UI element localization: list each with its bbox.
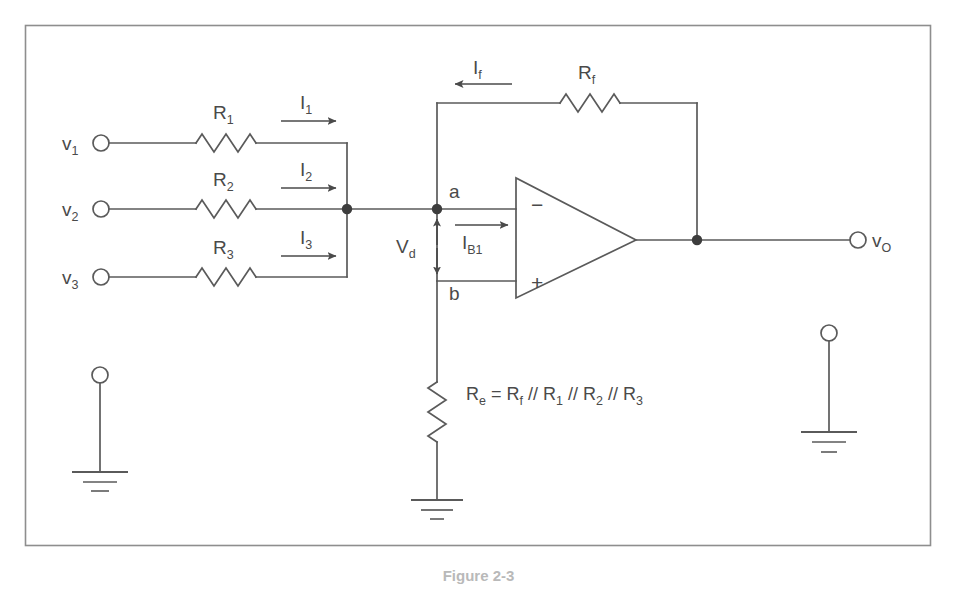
figure-caption-area: Figure 2-3 (0, 566, 957, 592)
ground-terminal-left[interactable] (92, 367, 108, 383)
input-branch-2 (93, 200, 347, 218)
figure-caption: Figure 2-3 (0, 566, 957, 586)
label-vo: vO (872, 230, 892, 255)
input-terminal-v2[interactable] (93, 201, 109, 217)
label-v2: v2 (62, 199, 79, 224)
resistor-r2 (196, 200, 256, 218)
ground-symbols (72, 432, 857, 519)
opamp-noninverting-sign: + (531, 271, 543, 294)
label-vd: Vd (396, 236, 416, 261)
label-re-equation: Re = Rf // R1 // R2 // R3 (466, 384, 643, 408)
figure-root: v1 v2 v3 R1 R2 R3 I1 I2 I3 If Rf a b Vd … (0, 0, 957, 592)
input-terminal-v1[interactable] (93, 135, 109, 151)
label-r3: R3 (213, 237, 234, 262)
label-v1: v1 (62, 133, 79, 158)
op-amp[interactable] (437, 178, 855, 298)
opamp-inverting-sign: − (531, 193, 543, 216)
output-reference-ground (821, 325, 837, 432)
input-branch-1 (93, 134, 347, 152)
resistor-r3 (196, 268, 256, 286)
ground-symbol-center (411, 500, 463, 519)
junction-dot-output (692, 235, 702, 245)
label-i2: I2 (300, 159, 312, 184)
resistor-r1 (196, 134, 256, 152)
compensation-branch (428, 281, 446, 500)
label-i3: I3 (300, 227, 312, 252)
input-branch-3 (93, 268, 347, 286)
ground-symbol-right (801, 432, 857, 452)
label-ib1: IB1 (462, 232, 483, 257)
input-terminal-v3[interactable] (93, 269, 109, 285)
junction-dot-summing (342, 204, 352, 214)
input-reference-ground (92, 367, 108, 472)
circuit-diagram: v1 v2 v3 R1 R2 R3 I1 I2 I3 If Rf a b Vd … (0, 0, 957, 592)
resistor-rf (560, 94, 620, 112)
label-i1: I1 (300, 92, 312, 117)
resistor-re (428, 382, 446, 442)
output-terminal-vo[interactable] (850, 232, 866, 248)
label-node-b: b (449, 283, 460, 304)
label-if: If (473, 57, 482, 82)
label-v3: v3 (62, 267, 79, 292)
ground-terminal-right[interactable] (821, 325, 837, 341)
label-r1: R1 (213, 102, 234, 127)
diagram-labels: v1 v2 v3 R1 R2 R3 I1 I2 I3 If Rf a b Vd … (62, 57, 892, 408)
junction-dot-node-a (432, 204, 442, 214)
label-r2: R2 (213, 169, 234, 194)
label-rf: Rf (578, 62, 596, 87)
label-node-a: a (449, 181, 460, 202)
ground-symbol-left (72, 472, 128, 491)
